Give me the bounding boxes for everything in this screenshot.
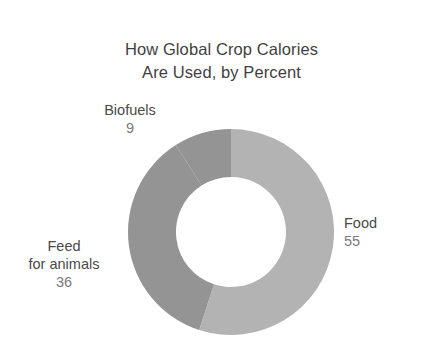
chart-title: How Global Crop Calories Are Used, by Pe… — [0, 38, 443, 84]
slice-label-food-name: Food — [344, 214, 377, 232]
slice-label-feed-value: 36 — [6, 273, 122, 291]
slice-label-biofuels-value: 9 — [0, 119, 260, 137]
donut-slice-group — [128, 129, 334, 335]
slice-label-biofuels: Biofuels 9 — [0, 101, 260, 137]
slice-label-feed-name-line-2: for animals — [6, 255, 122, 273]
donut-svg — [128, 129, 334, 335]
slice-label-food-value: 55 — [344, 232, 377, 250]
slice-label-feed-name-line-1: Feed — [6, 237, 122, 255]
chart-title-line-2: Are Used, by Percent — [0, 61, 443, 84]
donut-chart-figure: How Global Crop Calories Are Used, by Pe… — [0, 0, 443, 350]
chart-title-line-1: How Global Crop Calories — [0, 38, 443, 61]
slice-label-feed-for-animals: Feed for animals 36 — [6, 237, 122, 291]
slice-label-food: Food 55 — [344, 214, 377, 250]
donut-graphic — [128, 129, 334, 335]
slice-label-biofuels-name: Biofuels — [0, 101, 260, 119]
